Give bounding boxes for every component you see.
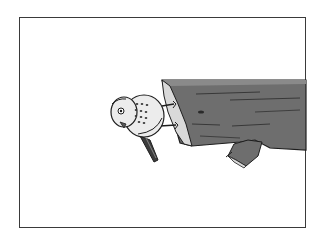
log	[162, 80, 306, 168]
illustration: Line illustration of a small bird perche…	[0, 0, 318, 241]
bird	[111, 95, 178, 162]
bird-on-log-drawing	[0, 0, 318, 241]
bird-tail	[140, 136, 158, 162]
